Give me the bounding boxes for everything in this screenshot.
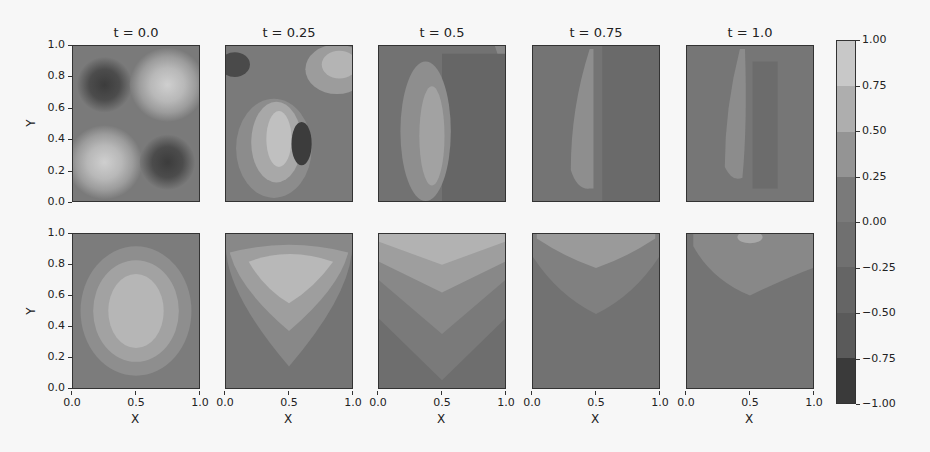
x-axis-label-c2: X bbox=[284, 412, 292, 426]
ytick-r1-0.2: 0.2 bbox=[31, 164, 65, 177]
xtick-c1-0.5: 0.5 bbox=[121, 396, 151, 409]
ytick-r2-0.4: 0.4 bbox=[31, 319, 65, 332]
ytick-r1-1.0: 1.0 bbox=[31, 38, 65, 51]
xtick-c5-0.5: 0.5 bbox=[735, 396, 765, 409]
colorbar-band-0.50-0.75 bbox=[837, 86, 855, 131]
x-axis-label-c4: X bbox=[591, 412, 599, 426]
xtick-c2-0.5: 0.5 bbox=[274, 396, 304, 409]
xtick-c3-0.0: 0.0 bbox=[363, 396, 393, 409]
colorbar-band-0.00-0.25 bbox=[837, 177, 855, 222]
colorbar-band--0.25-0.00 bbox=[837, 222, 855, 267]
ytick-r2-0.6: 0.6 bbox=[31, 288, 65, 301]
panel-title-1: t = 0.0 bbox=[72, 25, 200, 40]
panel-title-5: t = 1.0 bbox=[686, 25, 814, 40]
x-axis-label-c5: X bbox=[745, 412, 753, 426]
contour-panel-r1-t05 bbox=[378, 45, 506, 202]
ytick-r1-0.8: 0.8 bbox=[31, 69, 65, 82]
colorbar-tick--0.25: −0.25 bbox=[862, 261, 896, 274]
colorbar-tick-0.50: 0.50 bbox=[862, 124, 887, 137]
colorbar bbox=[836, 40, 856, 404]
contour-panel-r2-t1 bbox=[686, 233, 814, 389]
ytick-r2-0.8: 0.8 bbox=[31, 257, 65, 270]
colorbar-tick--0.50: −0.50 bbox=[862, 306, 896, 319]
xtick-c2-0.0: 0.0 bbox=[210, 396, 240, 409]
colorbar-tick--1.00: −1.00 bbox=[862, 397, 896, 410]
colorbar-band--0.75--0.50 bbox=[837, 313, 855, 358]
xtick-c4-0.5: 0.5 bbox=[581, 396, 611, 409]
contour-panel-r1-t1 bbox=[686, 45, 814, 202]
xtick-c3-0.5: 0.5 bbox=[427, 396, 457, 409]
xtick-c5-1.0: 1.0 bbox=[799, 396, 829, 409]
y-axis-label-r1: Y bbox=[24, 119, 38, 126]
contour-panel-r1-t075 bbox=[532, 45, 660, 202]
colorbar-tick-1.00: 1.00 bbox=[862, 33, 887, 46]
panel-title-3: t = 0.5 bbox=[378, 25, 506, 40]
colorbar-tick--0.75: −0.75 bbox=[862, 352, 896, 365]
colorbar-band--1.00--0.75 bbox=[837, 358, 855, 403]
ytick-r1-0.4: 0.4 bbox=[31, 132, 65, 145]
ytick-r2-0.2: 0.2 bbox=[31, 350, 65, 363]
x-axis-label-c3: X bbox=[437, 412, 445, 426]
colorbar-band--0.50--0.25 bbox=[837, 267, 855, 312]
ytick-r2-0.0: 0.0 bbox=[31, 381, 65, 394]
contour-panel-r1-t0 bbox=[72, 45, 200, 202]
ytick-r1-0.6: 0.6 bbox=[31, 101, 65, 114]
xtick-c5-0.0: 0.0 bbox=[671, 396, 701, 409]
colorbar-tick-0.25: 0.25 bbox=[862, 170, 887, 183]
contour-panel-r2-t0 bbox=[72, 233, 200, 389]
ytick-r1-0.0: 0.0 bbox=[31, 195, 65, 208]
y-axis-label-r2: Y bbox=[24, 307, 38, 314]
contour-panel-r2-t075 bbox=[532, 233, 660, 389]
xtick-c4-0.0: 0.0 bbox=[517, 396, 547, 409]
xtick-c1-0.0: 0.0 bbox=[57, 396, 87, 409]
contour-panel-r1-t025 bbox=[225, 45, 353, 202]
panel-title-4: t = 0.75 bbox=[532, 25, 660, 40]
colorbar-band-0.75-1.00 bbox=[837, 41, 855, 86]
colorbar-tick-0.00: 0.00 bbox=[862, 215, 887, 228]
x-axis-label-c1: X bbox=[131, 412, 139, 426]
contour-panel-r2-t025 bbox=[225, 233, 353, 389]
colorbar-tick-0.75: 0.75 bbox=[862, 79, 887, 92]
contour-panel-r2-t05 bbox=[378, 233, 506, 389]
colorbar-band-0.25-0.50 bbox=[837, 132, 855, 177]
ytick-r2-1.0: 1.0 bbox=[31, 226, 65, 239]
panel-title-2: t = 0.25 bbox=[225, 25, 353, 40]
